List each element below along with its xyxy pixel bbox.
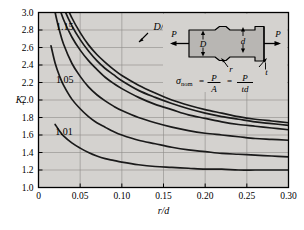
- svg-text:=: =: [199, 76, 204, 86]
- force-label-right: P: [274, 29, 281, 39]
- x-tick-label: 0.05: [72, 191, 89, 201]
- curve-label: 1.01: [55, 126, 73, 137]
- y-tick-label: 2.4: [22, 60, 34, 70]
- y-tick-label: 2.6: [22, 43, 34, 53]
- y-tick-label: 2.8: [22, 25, 34, 35]
- svg-text:A: A: [210, 84, 217, 94]
- curve-label: 1.05: [56, 74, 74, 85]
- force-label-left: P: [170, 29, 177, 39]
- y-tick-label: 1.6: [22, 130, 34, 140]
- x-tick-label: 0.15: [155, 191, 172, 201]
- dimension-label-r: r: [229, 64, 233, 74]
- y-tick-label: 2.2: [22, 78, 34, 88]
- svg-text:=: =: [227, 76, 232, 86]
- dimension-label-D: D: [199, 39, 207, 49]
- svg-text:P: P: [210, 73, 217, 83]
- x-tick-label: 0.20: [197, 191, 214, 201]
- y-tick-label: 1.2: [22, 165, 34, 175]
- curve-label: 1.15: [56, 21, 74, 32]
- svg-text:P: P: [241, 73, 248, 83]
- x-tick-label: 0.10: [114, 191, 131, 201]
- y-tick-label: 1.4: [22, 148, 34, 158]
- y-tick-label: 3.0: [22, 8, 34, 18]
- svg-text:td: td: [241, 84, 249, 94]
- specimen-inset-diagram: PPDdrtσnom=PA=Ptd: [163, 14, 287, 94]
- y-tick-label: 1.0: [22, 183, 34, 193]
- x-tick-label: 0.25: [239, 191, 256, 201]
- stress-concentration-chart: 1.01.21.41.61.82.02.22.42.62.83.0 00.050…: [0, 0, 304, 230]
- x-axis-label: r/d: [158, 205, 171, 216]
- x-tick-label: 0.30: [280, 191, 297, 201]
- y-tick-label: 1.8: [22, 113, 34, 123]
- x-tick-label: 0: [36, 191, 41, 201]
- dimension-label-d: d: [241, 36, 246, 46]
- chart-svg: 1.01.21.41.61.82.02.22.42.62.83.0 00.050…: [0, 0, 304, 230]
